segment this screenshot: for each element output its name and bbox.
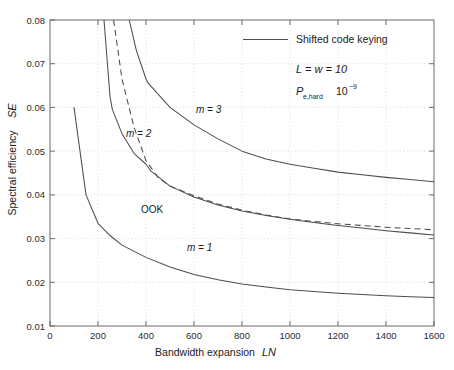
xtick-label-400: 400 [138, 330, 154, 341]
xtick-label-1200: 1200 [327, 330, 348, 341]
chart-background [0, 0, 454, 370]
ytick-label-0.03: 0.03 [27, 233, 46, 244]
xtick-label-1000: 1000 [279, 330, 300, 341]
xtick-label-800: 800 [234, 330, 250, 341]
ytick-label-0.02: 0.02 [27, 277, 46, 288]
curve-label-ook: OOK [141, 204, 164, 215]
x-axis-title-text: Bandwidth expansion [155, 346, 255, 358]
ytick-label-0.05: 0.05 [27, 146, 46, 157]
curve-label-m1: m = 1 [187, 242, 212, 253]
xtick-label-1600: 1600 [423, 330, 444, 341]
xtick-label-0: 0 [47, 330, 52, 341]
ytick-label-0.07: 0.07 [27, 58, 46, 69]
xtick-label-200: 200 [90, 330, 106, 341]
ytick-label-0.01: 0.01 [27, 321, 46, 332]
ytick-label-0.06: 0.06 [27, 102, 46, 113]
annotation-pe-value: 10 [336, 85, 348, 97]
curve-label-m2: m = 2 [126, 128, 152, 139]
y-axis-title-symbol: SE [6, 103, 18, 118]
annotation-params-L-w: L = w = 10 [296, 63, 348, 75]
annotation-pe-exponent: −9 [349, 83, 357, 90]
x-axis-title-symbol: LN [262, 346, 276, 358]
annotation-L-w-text: L = w = 10 [296, 63, 348, 75]
xtick-label-1400: 1400 [375, 330, 396, 341]
spectral-efficiency-chart: 0.08 0.07 0.06 0.05 0.04 0.03 0.02 0.01 … [0, 0, 454, 370]
ytick-label-0.04: 0.04 [27, 189, 46, 200]
xtick-label-600: 600 [186, 330, 202, 341]
ytick-label-0.08: 0.08 [27, 15, 46, 26]
legend-label-shifted-code-keying: Shifted code keying [296, 33, 388, 45]
annotation-pe-subscript: e,hard [303, 93, 323, 100]
y-axis-title-text: Spectral efficiency [6, 130, 18, 216]
curve-label-m3: m = 3 [196, 104, 222, 115]
